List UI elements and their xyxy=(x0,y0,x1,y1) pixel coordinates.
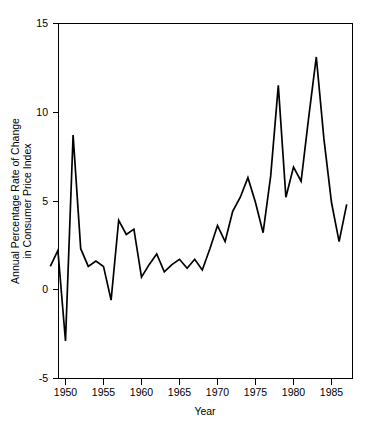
x-tick-label-1975: 1975 xyxy=(244,386,268,398)
line-chart-canvas: 15 10 5 0 -5 1950 1955 1960 1965 1970 19… xyxy=(0,0,367,428)
y-tick-label-5: 5 xyxy=(42,195,48,207)
y-tick-label-10: 10 xyxy=(36,106,48,118)
x-tick-label-1980: 1980 xyxy=(282,386,306,398)
plot-border xyxy=(59,24,353,379)
x-tick-label-1960: 1960 xyxy=(130,386,154,398)
y-axis-title-line1: Annual Percentage Rate of Change xyxy=(9,118,21,284)
x-axis-tick-labels: 1950 1955 1960 1965 1970 1975 1980 1985 xyxy=(54,386,344,398)
x-axis-ticks xyxy=(66,379,332,385)
x-axis-title: Year xyxy=(194,405,216,417)
x-tick-label-1965: 1965 xyxy=(168,386,192,398)
x-tick-label-1970: 1970 xyxy=(206,386,230,398)
y-tick-label-0: 0 xyxy=(42,283,48,295)
y-axis-title: Annual Percentage Rate of Change in Cons… xyxy=(9,118,33,284)
y-axis-tick-labels: 15 10 5 0 -5 xyxy=(36,17,48,384)
cpi-rate-of-change-line xyxy=(50,57,346,341)
plot-frame xyxy=(59,24,353,379)
chart-figure: 15 10 5 0 -5 1950 1955 1960 1965 1970 19… xyxy=(0,0,367,428)
y-tick-label-15: 15 xyxy=(36,17,48,29)
x-tick-label-1985: 1985 xyxy=(320,386,344,398)
y-tick-label-neg5: -5 xyxy=(39,372,48,384)
x-tick-label-1955: 1955 xyxy=(92,386,116,398)
x-tick-label-1950: 1950 xyxy=(54,386,78,398)
y-axis-ticks xyxy=(53,24,59,379)
y-axis-title-line2: in Consumer Price Index xyxy=(21,143,33,259)
